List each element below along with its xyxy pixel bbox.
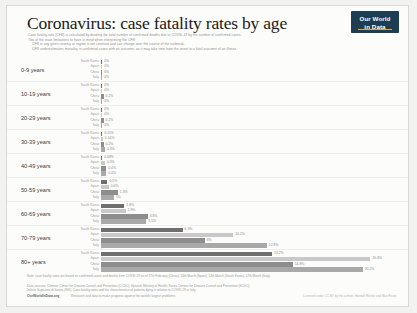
bar-value-label: 0%	[104, 112, 109, 116]
bar-row[interactable]: Spain0%	[7, 113, 408, 117]
age-group-row: 10-19 yearsSouth Korea0%Spain0%China0.2%…	[7, 82, 408, 106]
subtitle-line: CFR underestimates mortality in confirme…	[28, 47, 328, 52]
bar-row[interactable]: Spain0.14%	[7, 137, 408, 141]
bar-row[interactable]: Spain0.6%	[7, 185, 408, 189]
bar-row[interactable]: China14.8%	[7, 262, 408, 266]
bar[interactable]	[101, 142, 104, 146]
bar[interactable]	[101, 89, 102, 93]
bar-row[interactable]: South Korea0%	[7, 60, 408, 64]
bar-row[interactable]: China1.3%	[7, 190, 408, 194]
bar[interactable]	[101, 161, 105, 165]
bar-row[interactable]: China0.4%	[7, 166, 408, 170]
bar[interactable]	[101, 171, 106, 175]
bar-value-label: 0%	[104, 64, 109, 68]
country-label: Spain	[55, 184, 99, 188]
bar-row[interactable]: Italy0%	[7, 123, 408, 127]
bar[interactable]	[101, 94, 104, 98]
bar[interactable]	[101, 113, 102, 117]
bar-row[interactable]: Italy3.5%	[7, 219, 408, 223]
bar[interactable]	[101, 132, 102, 136]
country-bars: South Korea0%Spain0%China0%Italy0%	[7, 58, 408, 81]
bar-row[interactable]: Italy0.4%	[7, 171, 408, 175]
bar-row[interactable]: South Korea0.08%	[7, 156, 408, 160]
bar-row[interactable]: Spain10.2%	[7, 233, 408, 237]
bar-row[interactable]: South Korea0%	[7, 84, 408, 88]
country-bars: South Korea6.3%Spain10.2%China8%Italy12.…	[7, 226, 408, 249]
bar-row[interactable]: China0%	[7, 70, 408, 74]
bar-chart-plot: 0-9 yearsSouth Korea0%Spain0%China0%Ital…	[7, 58, 408, 274]
bar-value-label: 3.5%	[148, 219, 156, 223]
bar[interactable]	[101, 228, 183, 232]
bar[interactable]	[101, 209, 126, 213]
bar[interactable]	[101, 118, 104, 122]
country-bars: South Korea0.5%Spain0.6%China1.3%Italy1%	[7, 178, 408, 201]
bar[interactable]	[101, 214, 148, 218]
bar[interactable]	[101, 219, 146, 223]
bar-row[interactable]: Italy0.3%	[7, 147, 408, 151]
country-label: South Korea	[55, 227, 99, 231]
bar[interactable]	[101, 195, 114, 199]
bar-row[interactable]: South Korea13.2%	[7, 252, 408, 256]
bar[interactable]	[101, 204, 124, 208]
bar-row[interactable]: Spain20.8%	[7, 257, 408, 261]
bar-row[interactable]: Italy0%	[7, 75, 408, 79]
bar-row[interactable]: Italy12.8%	[7, 243, 408, 247]
bar[interactable]	[101, 65, 102, 69]
country-label: South Korea	[55, 179, 99, 183]
bar[interactable]	[101, 156, 102, 160]
bar-row[interactable]: China8%	[7, 238, 408, 242]
age-group-row: 80+ yearsSouth Korea13.2%Spain20.8%China…	[7, 250, 408, 274]
bar-row[interactable]: Spain0%	[7, 65, 408, 69]
bar[interactable]	[101, 180, 107, 184]
bar[interactable]	[101, 252, 272, 256]
bar-row[interactable]: China3.6%	[7, 214, 408, 218]
bar[interactable]	[101, 75, 102, 79]
bar-row[interactable]: Italy0%	[7, 99, 408, 103]
country-label: China	[55, 238, 99, 242]
bar[interactable]	[101, 137, 103, 141]
country-label: China	[55, 118, 99, 122]
bar-row[interactable]: China0.2%	[7, 142, 408, 146]
bar-row[interactable]: South Korea6.3%	[7, 228, 408, 232]
owid-tagline: Research and data to make progress again…	[71, 294, 176, 298]
bar[interactable]	[101, 70, 102, 74]
bar[interactable]	[101, 84, 102, 88]
bar[interactable]	[101, 233, 233, 237]
bar-row[interactable]: China0.2%	[7, 118, 408, 122]
bar-value-label: 13.2%	[274, 251, 284, 255]
bar[interactable]	[101, 262, 293, 266]
bar[interactable]	[101, 166, 106, 170]
bar-row[interactable]: South Korea1.8%	[7, 204, 408, 208]
bar[interactable]	[101, 123, 102, 127]
bar[interactable]	[101, 257, 370, 261]
bar-value-label: 0%	[104, 123, 109, 127]
owid-link[interactable]: OurWorldInData.org	[27, 294, 59, 298]
bar[interactable]	[101, 243, 267, 247]
bar-value-label: 0.6%	[111, 184, 119, 188]
bar-value-label: 0.08%	[104, 155, 114, 159]
owid-logo[interactable]: Our World in Data	[351, 11, 399, 33]
bar-row[interactable]: Italy1%	[7, 195, 408, 199]
country-label: Italy	[55, 99, 99, 103]
bar-row[interactable]: Spain0.3%	[7, 161, 408, 165]
bar[interactable]	[101, 238, 205, 242]
bar[interactable]	[101, 185, 109, 189]
bar[interactable]	[101, 147, 105, 151]
bar-row[interactable]: Spain0%	[7, 89, 408, 93]
bar-row[interactable]: South Korea0.11%	[7, 132, 408, 136]
bar-value-label: 0.5%	[109, 179, 117, 183]
bar-row[interactable]: South Korea0.5%	[7, 180, 408, 184]
bar[interactable]	[101, 190, 118, 194]
bar-value-label: 0.3%	[107, 147, 115, 151]
bar-row[interactable]: Spain1.9%	[7, 209, 408, 213]
country-label: Italy	[55, 195, 99, 199]
country-label: South Korea	[55, 155, 99, 159]
bar[interactable]	[101, 60, 102, 64]
age-group-row: 50-59 yearsSouth Korea0.5%Spain0.6%China…	[7, 178, 408, 202]
country-label: South Korea	[55, 59, 99, 63]
bar-row[interactable]: China0.2%	[7, 94, 408, 98]
bar[interactable]	[101, 108, 102, 112]
bar-row[interactable]: South Korea0%	[7, 108, 408, 112]
country-label: South Korea	[55, 203, 99, 207]
bar[interactable]	[101, 99, 102, 103]
